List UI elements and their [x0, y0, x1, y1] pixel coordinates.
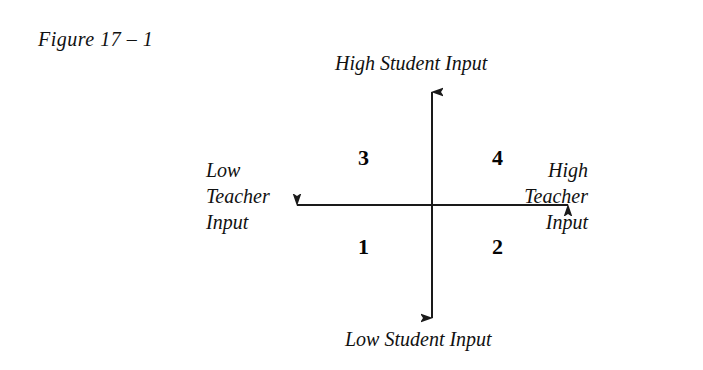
axis-label-high-teacher-input-line-3: Input	[488, 209, 588, 235]
quadrant-number-top-right: 4	[492, 145, 503, 171]
axis-label-low-teacher-input-line-2: Teacher	[206, 183, 270, 209]
axis-label-high-student-input: High Student Input	[335, 50, 487, 76]
axis-label-low-teacher-input-line-1: Low	[206, 157, 270, 183]
axis-label-high-teacher-input-line-2: Teacher	[488, 183, 588, 209]
quadrant-number-top-left: 3	[358, 145, 369, 171]
axis-label-high-teacher-input: High Teacher Input	[488, 157, 588, 235]
figure-canvas: Figure 17 – 1 High Student Input Low Stu…	[0, 0, 703, 370]
quadrant-number-bottom-left: 1	[358, 234, 369, 260]
axis-label-high-teacher-input-line-1: High	[488, 157, 588, 183]
axis-label-low-student-input: Low Student Input	[345, 326, 492, 352]
axis-label-low-teacher-input-line-3: Input	[206, 209, 270, 235]
quadrant-number-bottom-right: 2	[492, 234, 503, 260]
axis-label-low-teacher-input: Low Teacher Input	[206, 157, 270, 235]
